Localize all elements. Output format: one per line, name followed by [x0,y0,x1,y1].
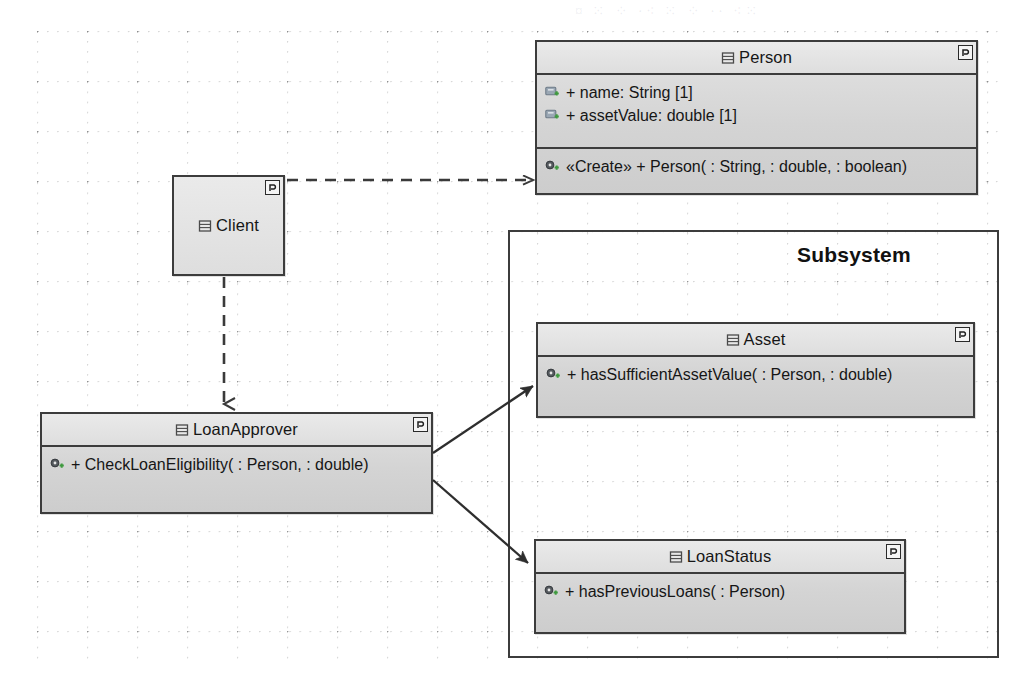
operations-compartment-loanstatus: + hasPreviousLoans( : Person) [536,574,904,607]
operation-icon [545,160,560,173]
class-header-client: Client [174,177,283,274]
class-box-client[interactable]: Client [172,175,285,276]
attribute-text: + assetValue: double [1] [566,105,737,126]
class-name-loanstatus: LoanStatus [687,547,771,566]
operation-row[interactable]: «Create» + Person( : String, : double, :… [537,155,976,178]
package-subsystem-title: Subsystem [797,243,911,267]
operation-text: «Create» + Person( : String, : double, :… [566,156,907,177]
operation-text: + hasPreviousLoans( : Person) [565,581,785,602]
class-box-person[interactable]: Person + name: String [1] [535,40,978,195]
class-name-loanapprover: LoanApprover [193,420,298,439]
class-name-person: Person [739,48,792,67]
attributes-compartment-person: + name: String [1] + assetValue: double … [537,75,976,149]
class-name-client: Client [216,216,259,235]
operation-icon [50,458,65,471]
uml-diagram-canvas: ¤ ⁙ ⁘ ·⁖ ⁙ ⁘ ·· ⁖⁙ Subsystem [0,0,1027,697]
class-box-asset[interactable]: Asset + hasSufficientAssetValue( : Perso… [536,322,975,418]
stereotype-badge-icon[interactable] [886,544,901,559]
class-icon [669,550,683,564]
operation-row[interactable]: + CheckLoanEligibility( : Person, : doub… [42,453,431,476]
operation-icon [546,368,561,381]
operation-text: + hasSufficientAssetValue( : Person, : d… [567,364,892,385]
operation-text: + CheckLoanEligibility( : Person, : doub… [71,454,369,475]
operation-row[interactable]: + hasSufficientAssetValue( : Person, : d… [538,363,973,386]
operation-icon [544,585,559,598]
operation-row[interactable]: + hasPreviousLoans( : Person) [536,580,904,603]
stereotype-badge-icon[interactable] [955,327,970,342]
operations-compartment-asset: + hasSufficientAssetValue( : Person, : d… [538,357,973,390]
attribute-row[interactable]: + name: String [1] [537,81,976,104]
stereotype-badge-icon[interactable] [413,417,428,432]
class-icon [726,333,740,347]
class-header-loanapprover: LoanApprover [42,414,431,447]
attribute-row[interactable]: + assetValue: double [1] [537,104,976,127]
attribute-icon [545,109,560,122]
class-name-asset: Asset [744,330,786,349]
class-icon [198,219,212,233]
attribute-icon [545,86,560,99]
scan-bleed-artifact: ¤ ⁙ ⁘ ·⁖ ⁙ ⁘ ·· ⁖⁙ [575,2,995,22]
class-icon [721,51,735,65]
stereotype-badge-icon[interactable] [958,45,973,60]
attribute-text: + name: String [1] [566,82,693,103]
operations-compartment-loanapprover: + CheckLoanEligibility( : Person, : doub… [42,447,431,480]
class-box-loanapprover[interactable]: LoanApprover + CheckLoanEligibility( : P… [40,412,433,514]
class-header-person: Person [537,42,976,75]
class-box-loanstatus[interactable]: LoanStatus + hasPreviousLoans( : Person) [534,539,906,634]
class-header-loanstatus: LoanStatus [536,541,904,574]
operations-compartment-person: «Create» + Person( : String, : double, :… [537,149,976,182]
stereotype-badge-icon[interactable] [265,180,280,195]
class-icon [175,423,189,437]
class-header-asset: Asset [538,324,973,357]
